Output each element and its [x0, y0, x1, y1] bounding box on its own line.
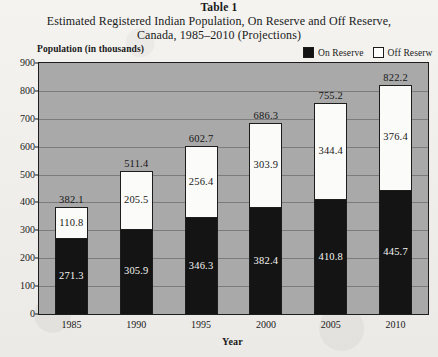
gridline — [39, 119, 428, 120]
y-axis-tick-label: 300 — [5, 225, 35, 235]
plot-area: 0100200300400500600700800900110.8271.338… — [38, 62, 429, 315]
y-axis-tick-mark — [35, 90, 39, 91]
gridline — [39, 91, 428, 92]
y-axis-tick-label: 700 — [5, 114, 35, 124]
y-axis-tick-label: 600 — [5, 142, 35, 152]
chart-title-line-2: Canada, 1985–2010 (Projections) — [0, 28, 438, 42]
y-axis-tick-label: 100 — [5, 281, 35, 291]
y-axis-tick-label: 500 — [5, 170, 35, 180]
legend-item-off-reserve: Off Reserw — [373, 47, 433, 58]
bar-stack[interactable]: 205.5305.9511.41990 — [120, 171, 153, 314]
y-axis-tick-mark — [35, 314, 39, 315]
bar-total-label: 382.1 — [59, 194, 84, 205]
bar-stack[interactable]: 376.4445.7822.22010 — [379, 85, 412, 314]
bar-value-on-reserve: 346.3 — [189, 260, 214, 271]
gridline — [39, 147, 428, 148]
bar-value-off-reserve: 376.4 — [383, 131, 408, 142]
chart-title-line-1: Estimated Registered Indian Population, … — [0, 14, 438, 28]
bar-value-off-reserve: 205.5 — [124, 194, 149, 205]
bar-segment-off-reserve[interactable]: 110.8 — [55, 207, 88, 238]
bar-total-label: 755.2 — [318, 90, 343, 101]
y-axis-tick-mark — [35, 63, 39, 64]
x-axis-title: Year — [38, 336, 427, 347]
legend-label-off-reserve: Off Reserw — [388, 48, 433, 58]
y-axis-tick-label: 900 — [5, 58, 35, 68]
x-axis-tick-label: 2000 — [256, 319, 276, 330]
bar-segment-off-reserve[interactable]: 376.4 — [379, 85, 412, 190]
y-axis-tick-mark — [35, 258, 39, 259]
bar-total-label: 511.4 — [124, 158, 148, 169]
gridline — [39, 286, 428, 287]
gridline — [39, 175, 428, 176]
legend-swatch-on-reserve-icon — [303, 47, 314, 58]
bar-segment-off-reserve[interactable]: 205.5 — [120, 171, 153, 228]
bar-value-on-reserve: 305.9 — [124, 265, 149, 276]
legend-item-on-reserve: On Reserve — [303, 47, 364, 58]
bar-total-label: 686.3 — [254, 110, 279, 121]
x-axis-tick-label: 1985 — [61, 319, 81, 330]
bar-segment-on-reserve[interactable]: 445.7 — [379, 190, 412, 314]
bar-value-off-reserve: 256.4 — [189, 176, 214, 187]
bar-segment-off-reserve[interactable]: 303.9 — [249, 123, 282, 208]
x-axis-tick-label: 2005 — [321, 319, 341, 330]
bar-segment-on-reserve[interactable]: 271.3 — [55, 238, 88, 314]
table-number-label: Table 1 — [0, 1, 438, 14]
bar-stack[interactable]: 344.4410.8755.22005 — [314, 103, 347, 314]
bar-segment-on-reserve[interactable]: 382.4 — [249, 207, 282, 314]
y-axis-tick-label: 800 — [5, 86, 35, 96]
bar-total-label: 822.2 — [383, 72, 408, 83]
bar-value-on-reserve: 410.8 — [318, 251, 343, 262]
legend-swatch-off-reserve-icon — [373, 47, 384, 58]
bar-value-off-reserve: 110.8 — [59, 217, 83, 228]
y-axis-tick-mark — [35, 118, 39, 119]
y-axis-tick-mark — [35, 286, 39, 287]
gridline — [39, 202, 428, 203]
bar-value-off-reserve: 344.4 — [318, 145, 343, 156]
y-axis-tick-label: 0 — [5, 309, 35, 319]
bar-stack[interactable]: 110.8271.3382.11985 — [55, 207, 88, 314]
bar-segment-off-reserve[interactable]: 344.4 — [314, 103, 347, 199]
x-axis-tick-label: 1990 — [126, 319, 146, 330]
gridline — [39, 230, 428, 231]
bar-stack[interactable]: 303.9382.4686.32000 — [249, 123, 282, 314]
bar-total-label: 602.7 — [189, 133, 214, 144]
bar-value-on-reserve: 445.7 — [383, 246, 408, 257]
y-axis-tick-mark — [35, 174, 39, 175]
x-axis-tick-label: 1995 — [191, 319, 211, 330]
bar-value-on-reserve: 382.4 — [254, 255, 279, 266]
y-axis-tick-mark — [35, 146, 39, 147]
legend-label-on-reserve: On Reserve — [318, 48, 364, 58]
bar-segment-on-reserve[interactable]: 410.8 — [314, 199, 347, 314]
bar-segment-off-reserve[interactable]: 256.4 — [185, 146, 218, 218]
y-axis-tick-label: 400 — [5, 197, 35, 207]
chart-legend: On Reserve Off Reserw — [303, 47, 432, 58]
y-axis-title: Population (in thousands) — [37, 44, 144, 54]
x-axis-tick-label: 2010 — [386, 319, 406, 330]
chart-title-block: Table 1 Estimated Registered Indian Popu… — [0, 1, 438, 42]
gridline — [39, 258, 428, 259]
bar-segment-on-reserve[interactable]: 305.9 — [120, 229, 153, 314]
bar-value-on-reserve: 271.3 — [59, 270, 84, 281]
bar-segment-on-reserve[interactable]: 346.3 — [185, 217, 218, 314]
y-axis-tick-mark — [35, 230, 39, 231]
y-axis-tick-mark — [35, 202, 39, 203]
bar-stack[interactable]: 256.4346.3602.71995 — [185, 146, 218, 314]
y-axis-tick-label: 200 — [5, 253, 35, 263]
bar-value-off-reserve: 303.9 — [254, 159, 279, 170]
